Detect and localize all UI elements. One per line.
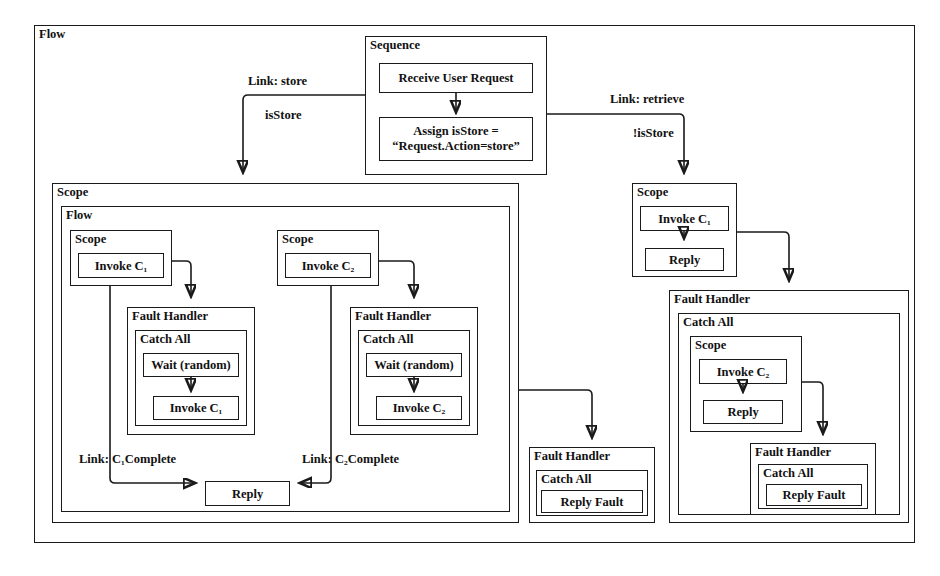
activity-invoke-c2-handler[interactable]: Invoke C₂ — [376, 396, 462, 420]
link-condition-not-isstore: !isStore — [633, 126, 674, 140]
activity-reply-retrieve[interactable]: Reply — [645, 248, 724, 271]
container-label-catch-all-retrieve: Catch All — [683, 315, 733, 329]
container-label-fault-handler-c2: Fault Handler — [355, 309, 431, 323]
activity-assign-line2: “Request.Action=store” — [392, 139, 519, 154]
link-label-store: Link: store — [248, 74, 307, 88]
link-label-c2complete: Link: C₂Complete — [302, 452, 399, 466]
activity-invoke-c2-retrieve[interactable]: Invoke C₂ — [699, 359, 787, 384]
link-label-c1complete-text: Link: C₁Complete — [79, 452, 176, 466]
container-label-catch-all-retrieve-inner: Catch All — [763, 466, 813, 480]
container-label-retrieve-scope: Scope — [637, 185, 668, 199]
activity-assign-isstore[interactable]: Assign isStore = “Request.Action=store” — [379, 117, 533, 161]
container-label-catch-all-c2: Catch All — [363, 332, 413, 346]
activity-invoke-c1-scope[interactable]: Invoke C₁ — [78, 253, 164, 278]
activity-wait-random-c2[interactable]: Wait (random) — [366, 353, 462, 377]
activity-invoke-c1-scope-label: Invoke C₁ — [95, 259, 148, 273]
container-label-fault-handler-retrieve: Fault Handler — [674, 292, 750, 306]
activity-invoke-c2-scope-label: Invoke C₂ — [302, 259, 355, 273]
container-label-store-scope: Scope — [57, 185, 88, 199]
link-label-retrieve: Link: retrieve — [610, 92, 684, 106]
activity-reply-fault-retrieve[interactable]: Reply Fault — [766, 484, 862, 506]
activity-invoke-c1-handler[interactable]: Invoke C₁ — [153, 396, 239, 420]
activity-invoke-c1-retrieve[interactable]: Invoke C₁ — [640, 206, 729, 231]
activity-invoke-c2-scope[interactable]: Invoke C₂ — [285, 253, 371, 278]
link-label-c1complete: Link: C₁Complete — [79, 452, 176, 466]
container-label-fault-handler-c1: Fault Handler — [132, 309, 208, 323]
container-label-store-flow: Flow — [66, 208, 92, 222]
activity-assign-line1: Assign isStore = — [413, 124, 498, 139]
link-condition-isstore: isStore — [265, 108, 302, 122]
container-label-scope-c2: Scope — [282, 232, 313, 246]
container-label-scope-c1: Scope — [75, 232, 106, 246]
activity-receive-user-request[interactable]: Receive User Request — [379, 63, 533, 93]
link-label-c2complete-text: Link: C₂Complete — [302, 452, 399, 466]
diagram-canvas: Flow Sequence Receive User Request Assig… — [0, 0, 940, 576]
container-label-sequence: Sequence — [370, 38, 420, 52]
container-label-fault-handler-retrieve-inner: Fault Handler — [755, 445, 831, 459]
container-label-scope-retrieve-inner: Scope — [695, 338, 726, 352]
container-label-catch-all-c1: Catch All — [140, 332, 190, 346]
container-label-outer-flow: Flow — [39, 27, 65, 41]
activity-reply-fault-store[interactable]: Reply Fault — [541, 490, 643, 513]
activity-reply-store[interactable]: Reply — [205, 481, 290, 506]
container-label-catch-all-store-scope: Catch All — [541, 472, 591, 486]
container-label-fault-handler-store-scope: Fault Handler — [534, 449, 610, 463]
activity-wait-random-c1[interactable]: Wait (random) — [143, 353, 239, 377]
activity-reply-retrieve-inner[interactable]: Reply — [703, 400, 783, 424]
